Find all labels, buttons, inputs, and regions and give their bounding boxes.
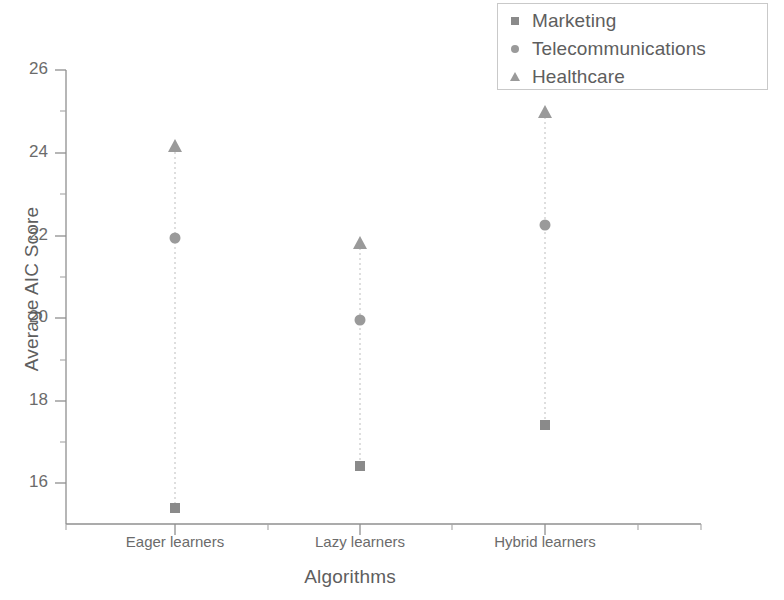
legend-label-marketing: Marketing xyxy=(532,10,616,32)
legend-label-telecommunications: Telecommunications xyxy=(532,38,706,60)
datapoint-healthcare-lazy xyxy=(353,236,367,249)
chart-legend: Marketing Telecommunications Healthcare xyxy=(497,3,768,90)
y-tick-label-24: 24 xyxy=(2,142,48,162)
datapoint-marketing-hybrid xyxy=(540,420,550,430)
datapoint-healthcare-eager xyxy=(168,139,182,152)
x-tick-label-eager-learners: Eager learners xyxy=(90,533,260,550)
legend-item-marketing[interactable]: Marketing xyxy=(498,6,769,35)
x-tick-label-lazy-learners: Lazy learners xyxy=(275,533,445,550)
datapoint-telecommunications-lazy xyxy=(355,315,366,326)
x-axis-title: Algorithms xyxy=(0,566,700,588)
legend-item-healthcare[interactable]: Healthcare xyxy=(498,62,769,91)
square-marker-icon xyxy=(498,6,532,35)
legend-label-healthcare: Healthcare xyxy=(532,66,625,88)
y-minor-ticks xyxy=(60,111,66,442)
triangle-marker-icon xyxy=(498,62,532,91)
legend-item-telecommunications[interactable]: Telecommunications xyxy=(498,34,769,63)
datapoint-healthcare-hybrid xyxy=(538,105,552,118)
datapoint-marketing-eager xyxy=(170,503,180,513)
chart-container: 26 24 22 20 18 16 Eager learners Lazy le… xyxy=(0,0,784,600)
x-minor-ticks xyxy=(66,524,701,530)
datapoint-group-eager-learners xyxy=(168,139,182,513)
circle-marker-icon xyxy=(498,34,532,63)
y-tick-label-26: 26 xyxy=(2,59,48,79)
y-axis-title: Average AIC Score xyxy=(21,169,43,409)
connector-lines xyxy=(175,112,545,508)
datapoint-marketing-lazy xyxy=(355,461,365,471)
datapoint-telecommunications-hybrid xyxy=(540,220,551,231)
y-tick-label-16: 16 xyxy=(2,472,48,492)
x-tick-label-hybrid-learners: Hybrid learners xyxy=(460,533,630,550)
datapoint-telecommunications-eager xyxy=(170,233,181,244)
